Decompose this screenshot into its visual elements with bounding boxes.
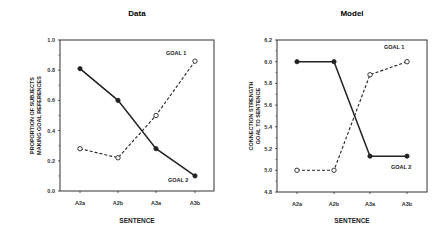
y-tick-label: 0.6 xyxy=(47,97,55,103)
y-axis-label: CONNECTION STRENGTH xyxy=(248,82,254,151)
annotation-goal-1: GOAL 1 xyxy=(384,44,404,50)
x-axis-label: SENTENCE xyxy=(119,217,155,224)
y-tick-label: 5.2 xyxy=(264,146,272,152)
y-tick-label: 0.2 xyxy=(47,158,55,164)
data-point xyxy=(154,113,158,117)
data-point xyxy=(193,59,197,63)
data-point xyxy=(295,60,299,64)
y-axis-label: PROPORTION OF SUBJECTS xyxy=(29,77,35,154)
chart-title: Model xyxy=(340,9,363,18)
y-axis-label: GOAL TO SENTENCE xyxy=(255,88,261,145)
y-axis-label: MAKING GOAL REFERENCES xyxy=(36,76,42,155)
y-tick-label: 4.8 xyxy=(264,189,272,195)
series-line-goal-1 xyxy=(297,62,407,171)
x-axis-label: SENTENCE xyxy=(334,217,370,224)
data-point xyxy=(332,60,336,64)
y-tick-label: 0.8 xyxy=(47,67,55,73)
chart-title: Data xyxy=(128,9,146,18)
series-line-goal-2 xyxy=(297,62,407,156)
annotation-goal-2: GOAL 2 xyxy=(391,164,411,170)
data-point xyxy=(116,156,120,160)
x-tick-label: A3a xyxy=(365,201,376,207)
data-point xyxy=(78,147,82,151)
y-tick-label: 5.8 xyxy=(264,80,272,86)
y-tick-label: 6.0 xyxy=(264,59,272,65)
data-point xyxy=(154,147,158,151)
y-tick-label: 0.0 xyxy=(47,188,55,194)
y-tick-label: 1.0 xyxy=(47,37,55,43)
x-tick-label: A3b xyxy=(190,200,201,206)
series-line-goal-1 xyxy=(80,69,195,176)
plot-frame xyxy=(60,40,214,191)
y-tick-label: 5.6 xyxy=(264,102,272,108)
x-tick-label: A3b xyxy=(402,201,413,207)
chart-data: Data0.00.20.40.60.81.0A2aA2bA3aA3bSENTEN… xyxy=(29,9,214,224)
annotation-goal-1: GOAL 1 xyxy=(166,50,186,56)
data-point xyxy=(332,168,336,172)
y-tick-label: 5.0 xyxy=(264,167,272,173)
data-point xyxy=(116,98,120,102)
x-tick-label: A2b xyxy=(113,200,124,206)
x-tick-label: A2a xyxy=(75,200,86,206)
x-tick-label: A3a xyxy=(151,200,162,206)
y-tick-label: 6.2 xyxy=(264,37,272,43)
annotation-goal-2: GOAL 2 xyxy=(168,177,188,183)
chart-model: Model4.85.05.25.45.65.86.06.2A2aA2bA3aA3… xyxy=(248,9,427,224)
figure: Data0.00.20.40.60.81.0A2aA2bA3aA3bSENTEN… xyxy=(0,0,443,235)
series-line-goal-2 xyxy=(80,61,195,158)
data-point xyxy=(78,67,82,71)
y-tick-label: 0.4 xyxy=(47,128,56,134)
data-point xyxy=(295,168,299,172)
data-point xyxy=(193,174,197,178)
data-point xyxy=(405,60,409,64)
x-tick-label: A2a xyxy=(292,201,303,207)
x-tick-label: A2b xyxy=(329,201,340,207)
y-tick-label: 5.4 xyxy=(264,124,273,130)
data-point xyxy=(405,154,409,158)
data-point xyxy=(368,73,372,77)
data-point xyxy=(368,154,372,158)
